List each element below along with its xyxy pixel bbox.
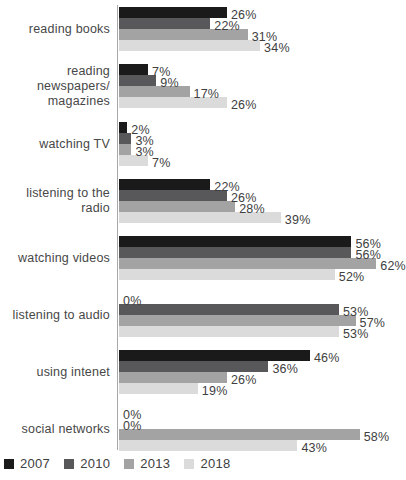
bar-2010	[119, 18, 210, 29]
value-label: 28%	[239, 201, 265, 215]
bar-row: 34%	[119, 40, 290, 51]
bar-row: 46%	[119, 350, 340, 361]
bar-2013	[119, 201, 235, 212]
category-label: reading books	[0, 7, 118, 51]
bar-groups: reading books26%22%31%34%reading newspap…	[0, 7, 406, 464]
bar-row: 17%	[119, 86, 257, 97]
category-label: reading newspapers/ magazines	[0, 64, 118, 109]
category-bars: 46%36%26%19%	[119, 350, 340, 394]
bar-row: 28%	[119, 201, 310, 212]
bar-row: 0%	[119, 293, 385, 304]
bar-group: listening to audio0%53%57%53%	[0, 293, 406, 337]
value-label: 46%	[314, 350, 340, 364]
value-label: 0%	[123, 418, 141, 432]
bar-2007	[119, 122, 127, 133]
value-label: 52%	[339, 269, 365, 283]
legend-item-2013: 2013	[124, 456, 170, 471]
value-label: 22%	[214, 18, 240, 32]
bar-2010	[119, 247, 351, 258]
bar-group: watching TV2%3%3%7%	[0, 122, 406, 166]
bar-2007	[119, 7, 227, 18]
bar-row: 3%	[119, 133, 171, 144]
category-label: watching TV	[0, 122, 118, 166]
bar-2013	[119, 315, 356, 326]
bar-group: watching videos56%56%62%52%	[0, 236, 406, 280]
bar-2010	[119, 190, 227, 201]
bar-row: 26%	[119, 7, 290, 18]
value-label: 26%	[231, 97, 257, 111]
bar-row: 0%	[119, 418, 389, 429]
bar-row: 3%	[119, 144, 171, 155]
value-label: 9%	[160, 75, 178, 89]
category-bars: 22%26%28%39%	[119, 179, 310, 223]
legend-label: 2007	[20, 456, 50, 471]
category-label: listening to audio	[0, 293, 118, 337]
legend-item-2007: 2007	[4, 456, 50, 471]
value-label: 62%	[380, 258, 406, 272]
bar-row: 7%	[119, 64, 257, 75]
bar-2013	[119, 258, 376, 269]
value-label: 43%	[301, 440, 327, 454]
bar-row: 9%	[119, 75, 257, 86]
bar-group: reading newspapers/ magazines7%9%17%26%	[0, 64, 406, 109]
value-label: 17%	[194, 86, 220, 100]
legend-swatch-icon	[184, 459, 194, 469]
category-label: watching videos	[0, 236, 118, 280]
bar-2007	[119, 350, 310, 361]
bar-row: 2%	[119, 122, 171, 133]
bar-2010	[119, 75, 156, 86]
legend-swatch-icon	[64, 459, 74, 469]
value-label: 58%	[364, 429, 390, 443]
legend-swatch-icon	[4, 459, 14, 469]
bar-2010	[119, 133, 131, 144]
bar-row: 0%	[119, 407, 389, 418]
value-label: 19%	[202, 383, 228, 397]
value-label: 53%	[343, 326, 369, 340]
bar-2013	[119, 372, 227, 383]
bar-row: 19%	[119, 383, 340, 394]
bar-row: 52%	[119, 269, 406, 280]
value-label: 7%	[152, 155, 170, 169]
bar-2018	[119, 326, 339, 337]
bar-row: 22%	[119, 18, 290, 29]
legend-item-2018: 2018	[184, 456, 230, 471]
bar-2018	[119, 40, 260, 51]
category-bars: 0%53%57%53%	[119, 293, 385, 337]
legend-item-2010: 2010	[64, 456, 110, 471]
bar-2007	[119, 236, 351, 247]
bar-row: 58%	[119, 429, 389, 440]
bar-2007	[119, 64, 148, 75]
value-label: 39%	[285, 212, 311, 226]
category-label: listening to the radio	[0, 179, 118, 223]
category-label: social networks	[0, 407, 118, 451]
bar-row: 22%	[119, 179, 310, 190]
category-bars: 0%0%58%43%	[119, 407, 389, 451]
legend-label: 2018	[200, 456, 230, 471]
bar-group: listening to the radio22%26%28%39%	[0, 179, 406, 223]
legend-swatch-icon	[124, 459, 134, 469]
category-bars: 56%56%62%52%	[119, 236, 406, 280]
bar-2018	[119, 269, 335, 280]
bar-2013	[119, 144, 131, 155]
bar-row: 43%	[119, 440, 389, 451]
bar-row: 36%	[119, 361, 340, 372]
bar-group: reading books26%22%31%34%	[0, 7, 406, 51]
value-label: 26%	[231, 372, 257, 386]
value-label: 56%	[355, 247, 381, 261]
bar-row: 56%	[119, 247, 406, 258]
bar-group: social networks0%0%58%43%	[0, 407, 406, 451]
bar-row: 53%	[119, 304, 385, 315]
value-label: 34%	[264, 40, 290, 54]
grouped-horizontal-bar-chart: reading books26%22%31%34%reading newspap…	[0, 0, 406, 480]
bar-2010	[119, 361, 268, 372]
bar-row: 53%	[119, 326, 385, 337]
chart-legend: 2007201020132018	[4, 456, 245, 471]
category-bars: 2%3%3%7%	[119, 122, 171, 166]
bar-2013	[119, 86, 190, 97]
bar-row: 31%	[119, 29, 290, 40]
bar-2007	[119, 179, 210, 190]
bar-group: using intenet46%36%26%19%	[0, 350, 406, 394]
bar-row: 26%	[119, 97, 257, 108]
bar-row: 39%	[119, 212, 310, 223]
bar-2013	[119, 429, 360, 440]
